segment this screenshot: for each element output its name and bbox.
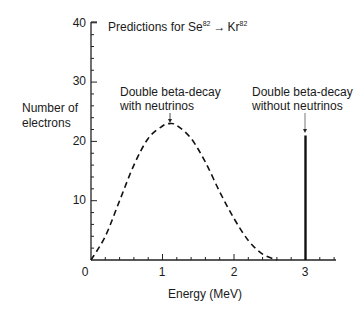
- annotation-without-neutrinos-line1: Double beta-decay: [252, 85, 353, 99]
- x-tick-label-1: 1: [159, 265, 166, 279]
- chart: 40 30 20 10 0 1 2 3 Number of electrons …: [0, 0, 355, 312]
- y-tick-label-40: 40: [73, 16, 87, 30]
- y-axis-label-line1: Number of: [22, 101, 79, 115]
- y-axis-label-line2: electrons: [22, 116, 71, 130]
- x-tick-label-0: 0: [82, 265, 89, 279]
- with-neutrinos-curve: [91, 123, 277, 260]
- x-ticks: [105, 254, 334, 260]
- annotation-with-neutrinos-line2: with neutrinos: [119, 99, 194, 113]
- arrow-icon: [168, 113, 172, 123]
- x-tick-label-2: 2: [231, 265, 238, 279]
- y-tick-label-20: 20: [73, 134, 87, 148]
- x-tick-label-3: 3: [302, 265, 309, 279]
- y-tick-label-10: 10: [73, 193, 87, 207]
- x-axis-label: Energy (MeV): [168, 287, 242, 301]
- y-tick-label-30: 30: [73, 74, 87, 88]
- y-ticks: [91, 23, 97, 248]
- arrow-icon: [303, 113, 307, 133]
- chart-title: Predictions for Se82→Kr82: [108, 20, 247, 34]
- annotation-without-neutrinos-line2: without neutrinos: [251, 99, 343, 113]
- annotation-with-neutrinos-line1: Double beta-decay: [120, 85, 221, 99]
